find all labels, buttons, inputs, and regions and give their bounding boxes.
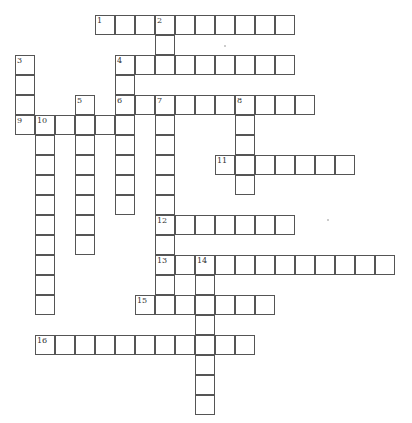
crossword-cell[interactable] <box>75 215 95 235</box>
crossword-cell[interactable] <box>215 95 235 115</box>
crossword-cell[interactable] <box>155 115 175 135</box>
crossword-cell[interactable] <box>175 95 195 115</box>
crossword-cell[interactable] <box>75 155 95 175</box>
crossword-cell[interactable] <box>175 295 195 315</box>
crossword-cell[interactable] <box>195 355 215 375</box>
crossword-cell[interactable] <box>115 335 135 355</box>
crossword-cell[interactable] <box>255 95 275 115</box>
crossword-cell[interactable] <box>115 175 135 195</box>
crossword-cell[interactable] <box>275 95 295 115</box>
crossword-cell[interactable] <box>295 155 315 175</box>
crossword-cell[interactable] <box>115 135 135 155</box>
crossword-cell[interactable] <box>35 255 55 275</box>
crossword-cell[interactable] <box>155 155 175 175</box>
crossword-cell[interactable] <box>75 115 95 135</box>
crossword-cell[interactable] <box>75 195 95 215</box>
crossword-cell[interactable] <box>315 155 335 175</box>
crossword-cell[interactable] <box>195 295 215 315</box>
crossword-cell[interactable] <box>215 55 235 75</box>
crossword-cell[interactable] <box>235 135 255 155</box>
crossword-cell[interactable] <box>135 55 155 75</box>
crossword-cell[interactable] <box>255 255 275 275</box>
crossword-cell[interactable]: 8 <box>235 95 255 115</box>
crossword-cell[interactable] <box>75 235 95 255</box>
crossword-cell[interactable] <box>275 255 295 275</box>
crossword-cell[interactable]: 9 <box>15 115 35 135</box>
crossword-cell[interactable] <box>195 335 215 355</box>
crossword-cell[interactable] <box>35 215 55 235</box>
crossword-cell[interactable] <box>255 295 275 315</box>
crossword-cell[interactable]: 3 <box>15 55 35 75</box>
crossword-cell[interactable] <box>55 335 75 355</box>
crossword-cell[interactable] <box>235 15 255 35</box>
crossword-cell[interactable]: 15 <box>135 295 155 315</box>
crossword-cell[interactable] <box>95 115 115 135</box>
crossword-cell[interactable] <box>255 215 275 235</box>
crossword-cell[interactable] <box>195 315 215 335</box>
crossword-cell[interactable] <box>255 15 275 35</box>
crossword-cell[interactable]: 7 <box>155 95 175 115</box>
crossword-cell[interactable] <box>35 135 55 155</box>
crossword-cell[interactable] <box>195 395 215 415</box>
crossword-cell[interactable]: 13 <box>155 255 175 275</box>
crossword-cell[interactable] <box>175 215 195 235</box>
crossword-cell[interactable] <box>15 95 35 115</box>
crossword-cell[interactable] <box>355 255 375 275</box>
crossword-cell[interactable] <box>115 15 135 35</box>
crossword-cell[interactable]: 14 <box>195 255 215 275</box>
crossword-cell[interactable] <box>215 255 235 275</box>
crossword-cell[interactable] <box>115 195 135 215</box>
crossword-cell[interactable] <box>295 95 315 115</box>
crossword-cell[interactable] <box>235 215 255 235</box>
crossword-cell[interactable] <box>235 295 255 315</box>
crossword-cell[interactable] <box>75 175 95 195</box>
crossword-cell[interactable] <box>155 55 175 75</box>
crossword-cell[interactable] <box>155 135 175 155</box>
crossword-cell[interactable]: 2 <box>155 15 175 35</box>
crossword-cell[interactable] <box>195 55 215 75</box>
crossword-cell[interactable] <box>115 75 135 95</box>
crossword-cell[interactable] <box>215 295 235 315</box>
crossword-cell[interactable] <box>75 135 95 155</box>
crossword-cell[interactable] <box>155 35 175 55</box>
crossword-cell[interactable] <box>195 15 215 35</box>
crossword-cell[interactable] <box>175 55 195 75</box>
crossword-cell[interactable] <box>235 155 255 175</box>
crossword-cell[interactable] <box>195 375 215 395</box>
crossword-cell[interactable] <box>295 255 315 275</box>
crossword-cell[interactable]: 4 <box>115 55 135 75</box>
crossword-cell[interactable] <box>35 155 55 175</box>
crossword-cell[interactable] <box>235 55 255 75</box>
crossword-cell[interactable] <box>275 215 295 235</box>
crossword-cell[interactable] <box>275 15 295 35</box>
crossword-cell[interactable] <box>35 175 55 195</box>
crossword-cell[interactable] <box>195 275 215 295</box>
crossword-cell[interactable]: 10 <box>35 115 55 135</box>
crossword-cell[interactable] <box>235 175 255 195</box>
crossword-cell[interactable] <box>215 215 235 235</box>
crossword-cell[interactable] <box>155 195 175 215</box>
crossword-cell[interactable] <box>115 115 135 135</box>
crossword-cell[interactable] <box>175 15 195 35</box>
crossword-cell[interactable] <box>35 275 55 295</box>
crossword-cell[interactable] <box>215 15 235 35</box>
crossword-cell[interactable] <box>235 255 255 275</box>
crossword-cell[interactable] <box>255 55 275 75</box>
crossword-cell[interactable] <box>115 155 135 175</box>
crossword-cell[interactable] <box>35 195 55 215</box>
crossword-cell[interactable] <box>155 235 175 255</box>
crossword-cell[interactable] <box>255 155 275 175</box>
crossword-cell[interactable] <box>175 335 195 355</box>
crossword-cell[interactable]: 16 <box>35 335 55 355</box>
crossword-cell[interactable] <box>155 275 175 295</box>
crossword-cell[interactable] <box>195 215 215 235</box>
crossword-cell[interactable] <box>155 175 175 195</box>
crossword-cell[interactable]: 5 <box>75 95 95 115</box>
crossword-cell[interactable] <box>135 15 155 35</box>
crossword-cell[interactable] <box>15 75 35 95</box>
crossword-cell[interactable] <box>375 255 395 275</box>
crossword-cell[interactable] <box>315 255 335 275</box>
crossword-cell[interactable] <box>75 335 95 355</box>
crossword-cell[interactable] <box>235 335 255 355</box>
crossword-cell[interactable] <box>175 255 195 275</box>
